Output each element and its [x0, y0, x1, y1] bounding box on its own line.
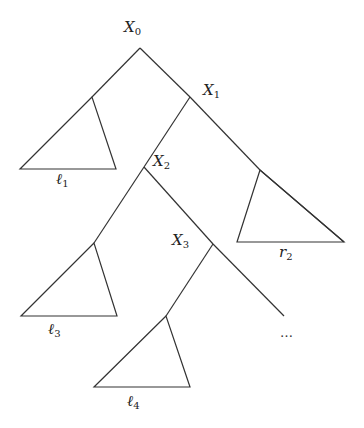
continuation-ellipsis: …: [280, 325, 293, 340]
tree-edge: [140, 48, 190, 97]
tree-diagram: [0, 0, 364, 428]
subtree-label-r2: r2: [279, 245, 293, 262]
subtree-triangle-r2: [237, 170, 344, 242]
node-label-X2: X2: [153, 154, 170, 171]
node-label-X1: X1: [203, 83, 220, 100]
subtree-triangle-l4: [94, 316, 190, 387]
tree-edge: [94, 167, 144, 243]
node-label-X3: X3: [172, 233, 189, 250]
subtree-label-l4: ℓ4: [127, 394, 140, 411]
subtree-label-l3: ℓ3: [48, 322, 61, 339]
node-label-X0: X0: [124, 20, 141, 37]
subtree-triangle-l1: [20, 97, 116, 169]
tree-edge: [92, 48, 140, 97]
tree-edge: [213, 244, 284, 316]
subtree-label-l1: ℓ1: [56, 172, 69, 189]
tree-edge: [190, 97, 260, 170]
tree-edge: [166, 244, 213, 316]
subtree-triangle-l3: [21, 243, 117, 316]
